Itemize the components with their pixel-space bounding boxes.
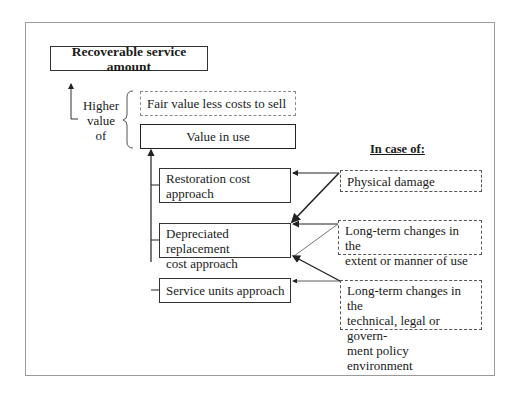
box-line: Depreciated replacement xyxy=(166,226,284,256)
label-line: of xyxy=(80,128,122,143)
higher-value-of-label: Higher value of xyxy=(80,98,122,143)
box-line: technical, legal or govern- xyxy=(347,313,475,343)
restoration-cost-approach-box: Restoration cost approach xyxy=(159,168,291,203)
extent-manner-of-use-box: Long-term changes in the extent or manne… xyxy=(338,220,482,255)
physical-damage-box: Physical damage xyxy=(340,170,482,192)
in-case-of-heading: In case of: xyxy=(370,142,425,157)
service-units-approach-box: Service units approach xyxy=(159,278,291,303)
box-line: cost approach xyxy=(166,256,284,271)
box-line: approach xyxy=(166,186,284,201)
box-line: extent or manner of use xyxy=(345,253,475,268)
box-line: Long-term changes in the xyxy=(345,223,475,253)
label-line: Higher xyxy=(80,98,122,113)
value-in-use-box: Value in use xyxy=(140,124,296,149)
recoverable-service-amount-box: Recoverable service amount xyxy=(50,46,208,71)
box-line: Long-term changes in the xyxy=(347,283,475,313)
fair-value-less-costs-box: Fair value less costs to sell xyxy=(140,91,296,116)
depreciated-replacement-cost-approach-box: Depreciated replacement cost approach xyxy=(159,223,291,258)
box-line: ment policy environment xyxy=(347,343,475,373)
label-line: value xyxy=(80,113,122,128)
box-line: Restoration cost xyxy=(166,171,284,186)
technical-legal-policy-box: Long-term changes in the technical, lega… xyxy=(340,280,482,330)
